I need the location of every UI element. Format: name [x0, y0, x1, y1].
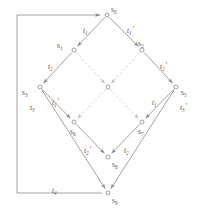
diagram-edge [146, 89, 174, 118]
state-node-s4[interactable] [106, 85, 110, 89]
state-node-s7[interactable] [140, 120, 144, 124]
diagram-edge [112, 124, 140, 153]
diagram-edge [44, 52, 72, 83]
node-layer [38, 13, 178, 195]
diagram-edge [76, 52, 104, 83]
diagram-edge [111, 90, 174, 189]
diagram-canvas [0, 0, 202, 214]
diagram-edge [42, 90, 105, 189]
diagram-edge [112, 52, 140, 83]
diagram-edge [42, 89, 70, 118]
state-node-s1[interactable] [72, 48, 76, 52]
state-node-s9[interactable] [106, 191, 110, 195]
diagram-edge [110, 89, 138, 118]
diagram-edge [76, 124, 104, 153]
diagram-edge [144, 52, 172, 83]
feedback-edge [17, 15, 102, 193]
state-node-s5[interactable] [174, 85, 178, 89]
diagram-edge [78, 89, 106, 118]
state-node-s3[interactable] [38, 85, 42, 89]
state-node-s6[interactable] [72, 120, 76, 124]
state-node-s2[interactable] [140, 48, 144, 52]
state-transition-diagram: s0s1s2s3s5s6s7s8s9t1t1′t2t2′t1′t1t2′t2t3… [0, 0, 202, 214]
diagram-edge [78, 17, 105, 46]
edge-layer [17, 15, 174, 193]
state-node-s8[interactable] [106, 155, 110, 159]
state-node-s0[interactable] [105, 13, 109, 17]
diagram-edge [109, 17, 138, 46]
